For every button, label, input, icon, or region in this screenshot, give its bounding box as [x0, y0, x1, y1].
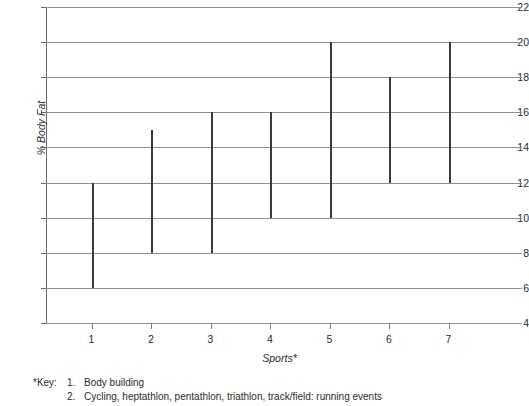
x-tick-label: 4: [255, 333, 285, 345]
key-entry: *Key:2.Cycling, heptathlon, pentathlon, …: [33, 390, 529, 404]
key-entry-text: Body building: [84, 376, 529, 390]
x-tick-label: 5: [315, 333, 345, 345]
x-tick-mark: [449, 323, 450, 329]
x-tick-label: 1: [77, 333, 107, 345]
range-bar: [330, 42, 332, 218]
key-entry-number: 2.: [67, 390, 84, 404]
range-bar: [270, 112, 272, 217]
key-title: *Key:: [33, 376, 67, 390]
plot-area: [46, 7, 522, 323]
x-tick-mark: [330, 323, 331, 329]
range-bar: [151, 130, 153, 253]
range-bar: [449, 42, 451, 182]
key-entry-text: Cycling, heptathlon, pentathlon, triathl…: [84, 390, 529, 404]
x-axis-label-text: Sports*: [262, 352, 296, 364]
range-bar: [92, 183, 94, 288]
range-bar: [389, 77, 391, 182]
x-tick-label: 2: [136, 333, 166, 345]
x-tick-label: 7: [434, 333, 464, 345]
gridline: [46, 323, 522, 324]
chart-key: *Key:1.Body building*Key:2.Cycling, hept…: [33, 376, 529, 403]
key-entry: *Key:1.Body building: [33, 376, 529, 390]
body-fat-range-chart: 46810121416182022 1234567 % Body Fat Spo…: [0, 0, 529, 406]
y-axis-label: % Body Fat: [35, 83, 47, 173]
x-tick-label: 3: [196, 333, 226, 345]
x-tick-mark: [92, 323, 93, 329]
x-tick-mark: [270, 323, 271, 329]
range-bar: [211, 112, 213, 252]
x-tick-mark: [389, 323, 390, 329]
x-tick-mark: [151, 323, 152, 329]
x-tick-mark: [211, 323, 212, 329]
x-tick-label: 6: [374, 333, 404, 345]
x-axis-label: Sports*: [0, 352, 529, 364]
key-entry-number: 1.: [67, 376, 84, 390]
